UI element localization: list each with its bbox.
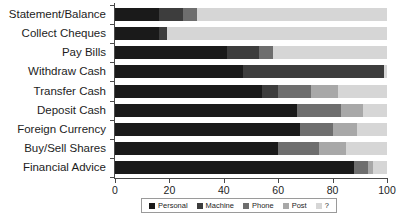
x-axis-tick-label: 100 — [378, 184, 396, 196]
category-label: Statement/Balance — [9, 8, 106, 21]
bar-row — [115, 85, 387, 98]
bar-segment-phone — [354, 161, 368, 174]
stacked-bar-chart: Statement/BalanceCollect ChequesPay Bill… — [0, 0, 406, 217]
legend-swatch-icon — [316, 203, 322, 209]
x-axis-tick — [278, 179, 279, 183]
x-axis-tick — [387, 179, 388, 183]
bar-segment-machine — [262, 85, 278, 98]
y-axis-tick — [110, 62, 115, 63]
bar-row — [115, 46, 387, 59]
legend-swatch-icon — [149, 203, 155, 209]
y-axis-tick — [110, 101, 115, 102]
y-axis-tick — [110, 5, 115, 6]
x-axis-tick — [115, 179, 116, 183]
bar-row — [115, 123, 387, 136]
legend-swatch-icon — [283, 203, 289, 209]
legend-label: ? — [325, 202, 329, 210]
category-label: Collect Cheques — [22, 27, 106, 40]
legend-label: Machine — [206, 202, 234, 210]
legend-swatch-icon — [243, 203, 249, 209]
category-label: Pay Bills — [62, 46, 106, 59]
y-axis-tick — [110, 158, 115, 159]
bar-segment-personal — [115, 161, 354, 174]
bar-segment-personal — [115, 142, 278, 155]
bar-row — [115, 65, 387, 78]
legend-item[interactable]: Post — [283, 202, 307, 210]
category-label: Buy/Sell Shares — [24, 142, 106, 155]
bar-segment-phone — [278, 142, 319, 155]
bar-segment-machine — [159, 8, 183, 21]
bar-row — [115, 142, 387, 155]
bar-segment-personal — [115, 46, 227, 59]
y-axis-tick — [110, 43, 115, 44]
bar-segment- — [363, 104, 387, 117]
bar-row — [115, 8, 387, 21]
legend-item[interactable]: Personal — [149, 202, 188, 210]
category-label: Transfer Cash — [34, 85, 106, 98]
bar-segment-post — [319, 142, 346, 155]
bar-segment-phone — [183, 8, 197, 21]
category-label: Financial Advice — [23, 161, 106, 174]
category-axis-labels: Statement/BalanceCollect ChequesPay Bill… — [0, 5, 110, 177]
bar-segment-personal — [115, 65, 243, 78]
bar-row — [115, 161, 387, 174]
bar-segment-phone — [259, 46, 273, 59]
y-axis-tick — [110, 120, 115, 121]
x-axis-line — [114, 178, 388, 179]
category-label: Deposit Cash — [37, 104, 106, 117]
bar-segment- — [357, 123, 387, 136]
bar-segment- — [197, 8, 387, 21]
bar-segment-phone — [297, 104, 341, 117]
legend-label: Phone — [252, 202, 274, 210]
x-axis-tick-label: 60 — [272, 184, 284, 196]
bar-segment- — [373, 161, 387, 174]
bar-segment-personal — [115, 104, 297, 117]
category-label: Withdraw Cash — [28, 65, 106, 78]
y-axis-tick — [110, 24, 115, 25]
x-axis-tick-label: 0 — [112, 184, 118, 196]
bar-segment-machine — [243, 65, 384, 78]
legend-item[interactable]: Machine — [197, 202, 234, 210]
bar-segment-personal — [115, 8, 159, 21]
x-axis-tick — [169, 179, 170, 183]
bar-segment- — [338, 85, 387, 98]
bar-segment- — [346, 142, 387, 155]
category-label: Foreign Currency — [17, 123, 106, 136]
bar-segment-machine — [227, 46, 260, 59]
bar-segment- — [384, 65, 387, 78]
legend-item[interactable]: Phone — [243, 202, 274, 210]
x-axis-tick-label: 80 — [327, 184, 339, 196]
plot-area — [115, 5, 387, 177]
bar-segment-phone — [278, 85, 311, 98]
x-axis-tick — [224, 179, 225, 183]
y-axis-tick — [110, 177, 115, 178]
bar-segment-personal — [115, 123, 300, 136]
x-axis-tick-label: 40 — [218, 184, 230, 196]
bar-row — [115, 104, 387, 117]
legend-swatch-icon — [197, 203, 203, 209]
bar-segment-post — [341, 104, 363, 117]
bar-segment-phone — [300, 123, 333, 136]
bar-segment- — [273, 46, 387, 59]
x-axis-tick-label: 20 — [164, 184, 176, 196]
bar-segment- — [167, 27, 387, 40]
bar-segment-personal — [115, 27, 159, 40]
y-axis-tick — [110, 139, 115, 140]
bar-row — [115, 27, 387, 40]
chart-legend: PersonalMachinePhonePost? — [141, 198, 337, 213]
bar-segment-post — [311, 85, 338, 98]
bar-segment-personal — [115, 85, 262, 98]
y-axis-tick — [110, 81, 115, 82]
x-axis-tick — [333, 179, 334, 183]
bar-segment-machine — [159, 27, 167, 40]
legend-item[interactable]: ? — [316, 202, 329, 210]
legend-label: Post — [292, 202, 307, 210]
legend-label: Personal — [158, 202, 188, 210]
bar-segment-post — [333, 123, 357, 136]
